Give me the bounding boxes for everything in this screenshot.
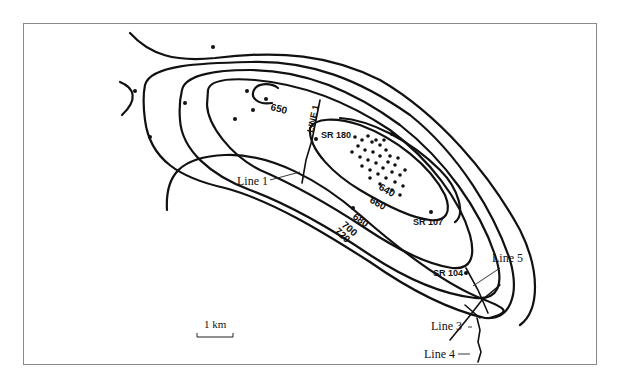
well-label-sr107: SR 107: [413, 217, 443, 227]
seismic-line-3-label: Line 3: [431, 319, 462, 333]
seismic-line-cross: [465, 305, 480, 318]
seismic-line-1-inline-label: LINE 1: [305, 104, 321, 133]
contour-label-660: 660: [368, 194, 388, 212]
line-5-leader: [473, 268, 500, 286]
well-label-sr104: SR 104: [433, 268, 463, 278]
contour-label-650: 650: [270, 101, 289, 116]
seismic-line-4-label: Line 4: [424, 347, 455, 361]
contour-label-640: 640: [377, 181, 397, 199]
contour-outer-top: [130, 33, 535, 325]
seismic-line-1-label: Line 1: [237, 174, 268, 188]
scale-bar-label: 1 km: [204, 318, 227, 330]
well-label-sr180: SR 180: [321, 130, 351, 140]
contour-inner-2: [340, 118, 460, 222]
contour-map: 650 640 660 680 700 720 SR 180 SR 107 SR…: [0, 0, 621, 383]
seismic-line-4: [477, 318, 481, 362]
contour-left-arc: [120, 82, 133, 115]
scale-bar: [197, 333, 233, 337]
seismic-line-5-label: Line 5: [492, 251, 523, 265]
